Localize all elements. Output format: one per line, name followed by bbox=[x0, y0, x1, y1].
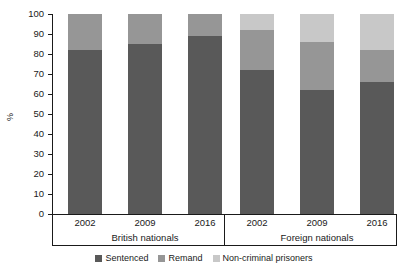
bar-segment[interactable] bbox=[128, 44, 162, 214]
bar-segment[interactable] bbox=[360, 50, 394, 82]
y-axis-tick-mark bbox=[48, 194, 52, 195]
y-axis-tick-label: 0 bbox=[39, 209, 44, 219]
bar-segment[interactable] bbox=[300, 14, 334, 42]
y-axis-tick-label: 80 bbox=[33, 49, 44, 59]
y-axis-tick-mark bbox=[48, 34, 52, 35]
bar-segment[interactable] bbox=[128, 14, 162, 44]
legend-swatch-icon bbox=[95, 255, 102, 262]
y-axis-tick-label: 40 bbox=[33, 129, 44, 139]
legend-item[interactable]: Non-criminal prisoners bbox=[213, 253, 313, 263]
bar-column[interactable] bbox=[128, 14, 162, 214]
bar-column[interactable] bbox=[300, 14, 334, 214]
bar-segment[interactable] bbox=[360, 82, 394, 214]
y-axis-tick-mark bbox=[48, 114, 52, 115]
x-axis-year-label: 2009 bbox=[128, 217, 162, 228]
bar-segment[interactable] bbox=[240, 70, 274, 214]
x-axis-group-labels: British nationalsForeign nationals bbox=[53, 230, 397, 246]
legend-item[interactable]: Remand bbox=[158, 253, 202, 263]
y-axis-tick-mark bbox=[48, 94, 52, 95]
bar-segment[interactable] bbox=[68, 14, 102, 50]
legend-label: Non-criminal prisoners bbox=[223, 253, 313, 263]
bar-stack bbox=[300, 14, 334, 214]
chart-legend: SentencedRemandNon-criminal prisoners bbox=[0, 251, 408, 265]
bar-segment[interactable] bbox=[360, 14, 394, 50]
axis-band-group-divider bbox=[224, 215, 225, 246]
x-axis-year-labels: 200220092016200220092016 bbox=[53, 215, 397, 230]
x-axis-year-label: 2016 bbox=[360, 217, 394, 228]
y-axis-tick-labels: 0102030405060708090100 bbox=[0, 14, 44, 214]
y-axis-tick-label: 60 bbox=[33, 89, 44, 99]
legend-label: Remand bbox=[168, 253, 202, 263]
axis-band-left-cap bbox=[52, 215, 53, 246]
legend-swatch-icon bbox=[158, 255, 165, 262]
bar-stack bbox=[360, 14, 394, 214]
y-axis-tick-mark bbox=[48, 54, 52, 55]
y-axis-tick-label: 70 bbox=[33, 69, 44, 79]
bar-column[interactable] bbox=[360, 14, 394, 214]
bar-segment[interactable] bbox=[240, 30, 274, 70]
y-axis-tick-label: 20 bbox=[33, 169, 44, 179]
bar-column[interactable] bbox=[188, 14, 222, 214]
plot-area bbox=[53, 14, 397, 214]
y-axis-tick-mark bbox=[48, 154, 52, 155]
bar-column[interactable] bbox=[68, 14, 102, 214]
legend-label: Sentenced bbox=[105, 253, 148, 263]
y-axis-tick-label: 50 bbox=[33, 109, 44, 119]
x-axis-group-label: Foreign nationals bbox=[247, 232, 387, 243]
x-axis-year-label: 2009 bbox=[300, 217, 334, 228]
x-axis-year-label: 2002 bbox=[240, 217, 274, 228]
x-axis-year-label: 2016 bbox=[188, 217, 222, 228]
bar-segment[interactable] bbox=[240, 14, 274, 30]
bar-stack bbox=[68, 14, 102, 214]
y-axis-tick-mark bbox=[48, 134, 52, 135]
y-axis-tick-label: 10 bbox=[33, 189, 44, 199]
bar-stack bbox=[128, 14, 162, 214]
bar-segment[interactable] bbox=[188, 36, 222, 214]
y-axis-tick-mark bbox=[48, 174, 52, 175]
y-axis-tick-label: 90 bbox=[33, 29, 44, 39]
legend-item[interactable]: Sentenced bbox=[95, 253, 148, 263]
y-axis-tick-mark bbox=[48, 14, 52, 15]
legend-swatch-icon bbox=[213, 255, 220, 262]
bar-stack bbox=[188, 14, 222, 214]
y-axis-tick-mark bbox=[48, 74, 52, 75]
bar-stack bbox=[240, 14, 274, 214]
bar-segment[interactable] bbox=[188, 14, 222, 36]
stacked-bar-chart: % 0102030405060708090100 200220092016200… bbox=[0, 0, 408, 267]
x-axis-group-label: British nationals bbox=[75, 232, 215, 243]
y-axis-tick-label: 100 bbox=[28, 9, 44, 19]
bar-column[interactable] bbox=[240, 14, 274, 214]
bar-segment[interactable] bbox=[68, 50, 102, 214]
bar-segment[interactable] bbox=[300, 90, 334, 214]
axis-band-right-cap bbox=[396, 215, 397, 246]
y-axis-tick-label: 30 bbox=[33, 149, 44, 159]
bar-segment[interactable] bbox=[300, 42, 334, 90]
x-axis-year-label: 2002 bbox=[68, 217, 102, 228]
